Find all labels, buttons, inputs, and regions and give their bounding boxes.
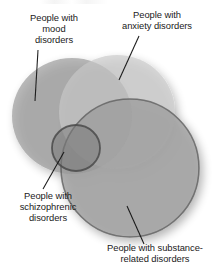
venn-shadow-group — [12, 55, 199, 237]
circle-schizophrenic — [52, 125, 100, 171]
venn-diagram-figure: People with mood disorders People with a… — [0, 0, 216, 278]
venn-circles-canvas — [0, 0, 216, 278]
